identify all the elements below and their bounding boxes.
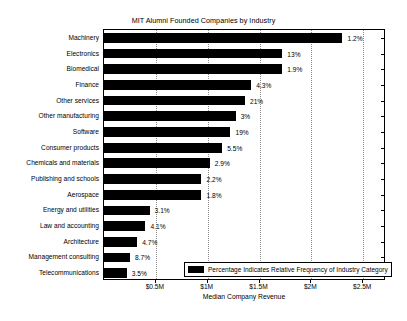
bar-row: 2.9% (104, 158, 384, 168)
bar (104, 111, 236, 121)
right-axis-tick (381, 242, 384, 243)
y-axis-label: Aerospace (67, 190, 99, 197)
x-axis-tick-label: $2.5M (353, 283, 371, 290)
y-axis-label: Telecommunications (39, 269, 99, 276)
right-axis-tick (381, 210, 384, 211)
bar-row: 3% (104, 111, 384, 121)
y-axis-category-labels: MachineryElectronicsBiomedicalFinanceOth… (0, 29, 101, 280)
x-axis-tick-label: $0.5M (146, 283, 164, 290)
bar (104, 206, 150, 216)
bar-row: 19% (104, 127, 384, 137)
bar-row: 1.2% (104, 33, 384, 43)
bar (104, 268, 127, 278)
bar-row: 1.9% (104, 64, 384, 74)
bar (104, 221, 145, 231)
y-axis-label: Law and accounting (40, 222, 99, 229)
bar-row: 1.8% (104, 190, 384, 200)
bar (104, 127, 230, 137)
right-axis-tick (381, 54, 384, 55)
y-axis-label: Finance (75, 80, 99, 87)
bar (104, 190, 201, 200)
y-axis-label: Publishing and schools (31, 175, 99, 182)
y-axis-label: Biomedical (67, 65, 99, 72)
right-axis-tick (381, 38, 384, 39)
bar (104, 253, 130, 263)
right-axis-tick (381, 101, 384, 102)
right-axis-tick (381, 195, 384, 196)
bar-value-label: 3.1% (155, 207, 170, 214)
x-axis-tick-label: $2M (304, 283, 317, 290)
bar (104, 174, 201, 184)
right-axis-tick (381, 179, 384, 180)
chart-title: MIT Alumni Founded Companies by Industry (0, 16, 407, 25)
bar-value-label: 13% (287, 50, 300, 57)
y-axis-label: Software (73, 127, 99, 134)
bar-value-label: 5.5% (227, 144, 242, 151)
y-axis-label: Chemicals and materials (26, 159, 99, 166)
x-axis-tick-label: $1M (200, 283, 213, 290)
bar-value-label: 21% (250, 97, 263, 104)
y-axis-label: Energy and utilities (43, 206, 99, 213)
bar (104, 237, 137, 247)
right-axis-tick (381, 163, 384, 164)
bar (104, 49, 282, 59)
bar-value-label: 1.9% (287, 66, 302, 73)
chart-figure: MIT Alumni Founded Companies by Industry… (0, 0, 407, 321)
right-axis-tick (381, 257, 384, 258)
bars-layer: 1.2%13%1.9%4.3%21%3%19%5.5%2.9%2.2%1.8%3… (104, 30, 384, 279)
right-axis-tick (381, 85, 384, 86)
bar (104, 96, 245, 106)
right-axis-tick (381, 226, 384, 227)
y-axis-label: Electronics (67, 49, 99, 56)
bar-value-label: 4.7% (142, 238, 157, 245)
y-axis-label: Consumer products (41, 143, 99, 150)
bar-row: 4.3% (104, 80, 384, 90)
y-axis-label: Architecture (64, 237, 99, 244)
bar-row: 2.2% (104, 174, 384, 184)
bar-value-label: 4.3% (256, 81, 271, 88)
bar-row: 3.1% (104, 206, 384, 216)
bar-value-label: 2.2% (206, 176, 221, 183)
right-axis-tick (381, 132, 384, 133)
bar (104, 33, 342, 43)
chart-legend: Percentage Indicates Relative Frequency … (184, 262, 392, 277)
bar-value-label: 19% (235, 128, 248, 135)
bar-value-label: 1.8% (206, 191, 221, 198)
bar-value-label: 3.5% (132, 270, 147, 277)
right-axis-tick (381, 148, 384, 149)
x-axis-title: Median Company Revenue (103, 293, 385, 300)
bar-row: 21% (104, 96, 384, 106)
bar (104, 158, 210, 168)
bar-color-swatch (188, 266, 204, 273)
bar-value-label: 4.1% (150, 223, 165, 230)
legend-label: Percentage Indicates Relative Frequency … (208, 266, 388, 273)
bar-row: 5.5% (104, 143, 384, 153)
bar-row: 8.7% (104, 253, 384, 263)
bar-row: 4.7% (104, 237, 384, 247)
bar (104, 80, 251, 90)
x-axis-tick-label: $1.5M (249, 283, 267, 290)
bar (104, 143, 222, 153)
bar-value-label: 1.2% (347, 34, 362, 41)
bar (104, 64, 282, 74)
y-axis-label: Machinery (68, 33, 99, 40)
bar-row: 13% (104, 49, 384, 59)
right-axis-tick (381, 69, 384, 70)
right-axis-tick (381, 116, 384, 117)
bar-row: 4.1% (104, 221, 384, 231)
bar-value-label: 2.9% (215, 160, 230, 167)
y-axis-label: Other services (56, 96, 99, 103)
bar-value-label: 8.7% (135, 254, 150, 261)
y-axis-label: Management consulting (29, 253, 99, 260)
y-axis-label: Other manufacturing (39, 112, 100, 119)
bar-value-label: 3% (241, 113, 251, 120)
plot-area: 1.2%13%1.9%4.3%21%3%19%5.5%2.9%2.2%1.8%3… (103, 29, 385, 280)
